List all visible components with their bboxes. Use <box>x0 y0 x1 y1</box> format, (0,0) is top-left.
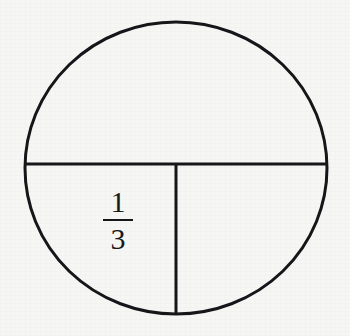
fraction-denominator: 3 <box>92 223 144 255</box>
fraction-numerator: 1 <box>92 186 144 218</box>
fraction-label-one-third: 1 3 <box>92 186 144 255</box>
fraction-bar-icon <box>103 219 133 221</box>
circle-fraction-diagram <box>0 0 350 336</box>
figure-canvas: 1 3 <box>0 0 350 336</box>
